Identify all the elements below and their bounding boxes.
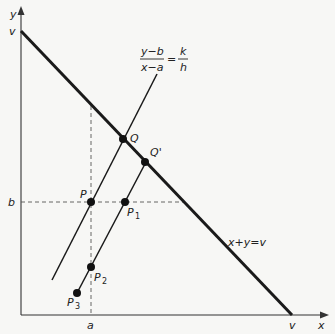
label-p2-subscript: 2 [102, 277, 107, 286]
ray-through-p-q [52, 74, 157, 280]
equation-rhs-numerator: k [180, 45, 187, 58]
point-p2 [87, 263, 95, 271]
label-q: Q [130, 132, 139, 145]
equation-equals-sign: = [167, 53, 176, 66]
label-p3: P 3 [67, 296, 80, 311]
y-axis-arrow-icon [18, 6, 25, 15]
b-label: b [8, 196, 15, 209]
y-axis-label: y [9, 8, 17, 21]
equation-lhs-numerator: y−b [140, 45, 164, 58]
label-p1-main: P [127, 206, 134, 219]
budget-line-label: x+y=v [227, 236, 266, 249]
equation-lhs-denominator: x−a [140, 61, 164, 74]
ray-equation: y−b x−a = k h [140, 45, 188, 74]
point-p [87, 198, 95, 206]
label-qprime: Q' [150, 146, 162, 159]
a-label: a [87, 319, 94, 332]
point-q [119, 135, 127, 143]
label-p: P [80, 188, 87, 201]
point-qprime [141, 158, 149, 166]
point-p1 [121, 198, 129, 206]
label-p1-subscript: 1 [135, 212, 140, 221]
label-p2: P 2 [94, 271, 107, 286]
label-p2-main: P [94, 271, 101, 284]
ray-budget-line-diagram: y v b a v x x+y=v y−b x−a = k h Q Q' P P… [0, 0, 335, 334]
y-intercept-label: v [9, 25, 16, 38]
ray-through-p3-p2-p1-qprime [77, 162, 146, 293]
x-axis-label: x [317, 319, 325, 332]
label-p1: P 1 [127, 206, 140, 221]
equation-rhs-denominator: h [180, 61, 187, 74]
label-p3-subscript: 3 [75, 302, 80, 311]
x-intercept-label: v [289, 319, 296, 332]
x-axis-arrow-icon [320, 312, 329, 319]
label-p3-main: P [67, 296, 74, 309]
point-p3 [73, 289, 81, 297]
